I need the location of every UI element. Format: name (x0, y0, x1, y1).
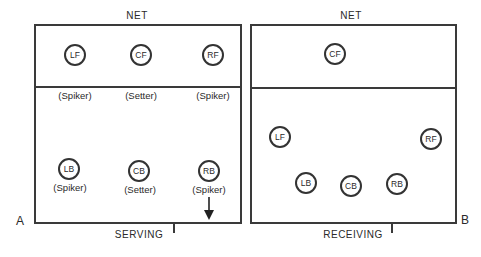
player-a-rf: RF (202, 44, 224, 66)
role-a-lb: (Spiker) (53, 182, 86, 193)
baseline-tick-b (391, 222, 393, 233)
attack-line-a (34, 86, 242, 88)
player-b-lf: LF (269, 126, 291, 148)
player-a-rb: RB (198, 160, 220, 182)
player-a-cb: CB (128, 160, 150, 182)
side-label-b: B (461, 213, 469, 227)
role-a-cb: (Setter) (124, 184, 156, 195)
down-arrow-icon (203, 197, 215, 221)
player-a-cf: CF (130, 44, 152, 66)
player-b-lb: LB (295, 172, 317, 194)
baseline-b (250, 222, 457, 224)
role-a-lf: (Spiker) (58, 90, 91, 101)
player-b-cf: CF (324, 43, 346, 65)
role-a-rb: (Spiker) (192, 184, 225, 195)
side-label-a: A (16, 214, 24, 228)
net-label-a: NET (126, 10, 148, 21)
net-label-b: NET (340, 10, 362, 21)
baseline-tick-a (173, 222, 175, 233)
role-a-rf: (Spiker) (196, 90, 229, 101)
role-a-cf: (Setter) (125, 90, 157, 101)
receiving-label: RECEIVING (323, 229, 383, 240)
player-b-rf: RF (420, 128, 442, 150)
player-a-lb: LB (58, 158, 80, 180)
baseline-a (34, 222, 242, 224)
attack-line-b (250, 87, 457, 89)
serving-label: SERVING (115, 229, 163, 240)
player-a-lf: LF (64, 44, 86, 66)
player-b-rb: RB (386, 173, 408, 195)
player-b-cb: CB (340, 175, 362, 197)
